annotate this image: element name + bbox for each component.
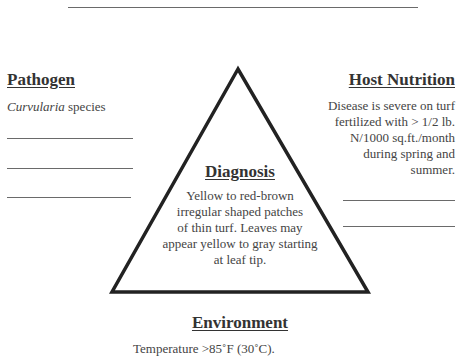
host-nutrition-text: Disease is severe on turf fertilized wit… — [295, 98, 455, 178]
pathogen-blank-line-3 — [7, 197, 131, 198]
diagnosis-text: Yellow to red-brown irregular shaped pat… — [150, 188, 330, 268]
host-nutrition-heading: Host Nutrition — [349, 70, 455, 90]
pathogen-text: Curvularia species — [7, 99, 106, 115]
host-blank-line-2 — [343, 226, 455, 227]
diagnosis-heading: Diagnosis — [180, 162, 300, 182]
environment-heading: Environment — [160, 313, 320, 333]
pathogen-genus: Curvularia — [7, 99, 65, 114]
pathogen-blank-line-1 — [7, 138, 133, 139]
environment-text: Temperature >85˚F (30˚C). — [133, 341, 275, 357]
host-blank-line-1 — [343, 200, 455, 201]
pathogen-blank-line-2 — [7, 168, 133, 169]
pathogen-heading: Pathogen — [7, 70, 75, 90]
pathogen-rest: species — [65, 99, 106, 114]
